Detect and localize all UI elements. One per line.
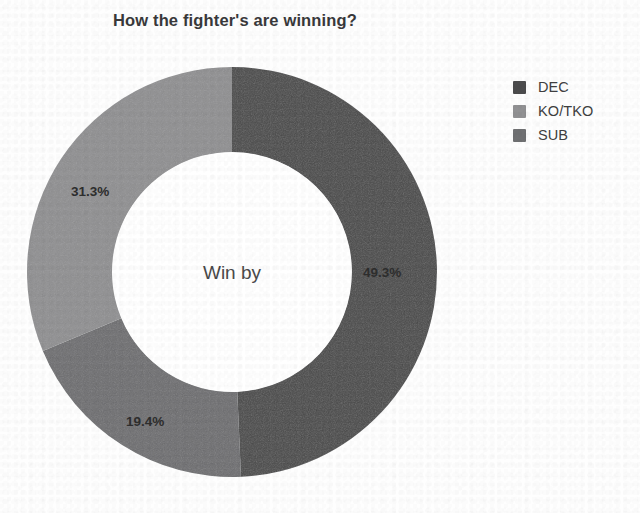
legend-label-kotko: KO/TKO <box>538 103 593 119</box>
chart-page: How the fighter's are winning? <box>0 0 640 513</box>
legend-label-dec: DEC <box>538 79 569 95</box>
slice-label-kotko: 31.3% <box>71 184 109 199</box>
legend-swatch-sub <box>513 129 526 142</box>
donut-svg: 49.3% 31.3% 19.4% Win by <box>0 0 470 513</box>
chart-title: How the fighter's are winning? <box>0 11 470 30</box>
legend-item-dec[interactable]: DEC <box>513 76 633 98</box>
legend-item-sub[interactable]: SUB <box>513 124 633 146</box>
legend-swatch-kotko <box>513 105 526 118</box>
legend-swatch-dec <box>513 81 526 94</box>
legend-item-kotko[interactable]: KO/TKO <box>513 100 633 122</box>
donut-chart: 49.3% 31.3% 19.4% Win by <box>0 0 470 513</box>
legend: DEC KO/TKO SUB <box>513 76 633 148</box>
legend-label-sub: SUB <box>538 127 568 143</box>
donut-center-label: Win by <box>203 262 262 283</box>
slice-label-dec: 49.3% <box>363 265 401 280</box>
slice-label-sub: 19.4% <box>126 414 164 429</box>
